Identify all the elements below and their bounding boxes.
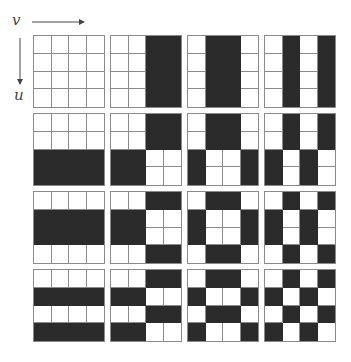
basis-cell xyxy=(111,36,129,54)
basis-cell xyxy=(34,114,52,132)
basis-cell xyxy=(223,270,241,288)
basis-cell xyxy=(146,132,164,150)
basis-cell xyxy=(111,288,129,306)
basis-cell xyxy=(241,89,259,107)
basis-cell xyxy=(223,150,241,168)
basis-cell xyxy=(146,306,164,324)
basis-cell xyxy=(318,306,336,324)
basis-cell xyxy=(300,114,318,132)
basis-cell xyxy=(188,288,206,306)
basis-cell xyxy=(265,54,283,72)
basis-cell xyxy=(206,270,224,288)
basis-cell xyxy=(87,228,105,246)
basis-cell xyxy=(241,323,259,341)
basis-cell xyxy=(34,245,52,263)
basis-cell xyxy=(188,228,206,246)
basis-cell xyxy=(206,89,224,107)
basis-cell xyxy=(164,323,182,341)
basis-cell xyxy=(223,89,241,107)
basis-cell xyxy=(188,132,206,150)
basis-cell xyxy=(206,323,224,341)
basis-cell xyxy=(69,306,87,324)
basis-block-u1-v1 xyxy=(110,113,182,186)
basis-cell xyxy=(265,89,283,107)
basis-cell xyxy=(241,270,259,288)
basis-cell xyxy=(318,245,336,263)
basis-cell xyxy=(129,306,147,324)
basis-cell xyxy=(146,228,164,246)
basis-cell xyxy=(300,245,318,263)
basis-cell xyxy=(206,132,224,150)
basis-cell xyxy=(164,210,182,228)
basis-cell xyxy=(283,192,301,210)
basis-cell xyxy=(241,72,259,90)
basis-cell xyxy=(318,89,336,107)
basis-cell xyxy=(188,54,206,72)
basis-cell xyxy=(87,150,105,168)
basis-cell xyxy=(129,167,147,185)
basis-cell xyxy=(188,89,206,107)
basis-cell xyxy=(164,150,182,168)
basis-cell xyxy=(34,323,52,341)
basis-block-u3-v2 xyxy=(187,269,259,342)
basis-cell xyxy=(188,192,206,210)
basis-cell xyxy=(52,89,70,107)
basis-cell xyxy=(300,210,318,228)
basis-cell xyxy=(87,72,105,90)
basis-cell xyxy=(206,245,224,263)
basis-cell xyxy=(164,89,182,107)
basis-cell xyxy=(265,245,283,263)
basis-cell xyxy=(164,288,182,306)
basis-cell xyxy=(129,54,147,72)
basis-cell xyxy=(241,192,259,210)
basis-cell xyxy=(111,192,129,210)
basis-cell xyxy=(34,288,52,306)
basis-cell xyxy=(206,167,224,185)
basis-cell xyxy=(52,36,70,54)
basis-cell xyxy=(223,132,241,150)
basis-cell xyxy=(111,114,129,132)
basis-cell xyxy=(52,288,70,306)
basis-cell xyxy=(241,36,259,54)
basis-cell xyxy=(318,167,336,185)
basis-cell xyxy=(146,245,164,263)
basis-cell xyxy=(188,306,206,324)
basis-cell xyxy=(223,72,241,90)
basis-cell xyxy=(188,167,206,185)
basis-cell xyxy=(300,270,318,288)
basis-cell xyxy=(69,210,87,228)
basis-block-u2-v3 xyxy=(264,191,336,264)
basis-cell xyxy=(318,192,336,210)
basis-cell xyxy=(34,89,52,107)
basis-cell xyxy=(241,210,259,228)
basis-cell xyxy=(300,288,318,306)
basis-cell xyxy=(34,54,52,72)
basis-cell xyxy=(52,228,70,246)
basis-cell xyxy=(69,323,87,341)
basis-cell xyxy=(69,132,87,150)
basis-cell xyxy=(300,54,318,72)
basis-cell xyxy=(87,89,105,107)
basis-cell xyxy=(111,228,129,246)
basis-cell xyxy=(283,132,301,150)
basis-cell xyxy=(283,228,301,246)
basis-cell xyxy=(318,36,336,54)
basis-cell xyxy=(129,288,147,306)
basis-cell xyxy=(300,89,318,107)
basis-cell xyxy=(69,288,87,306)
basis-cell xyxy=(34,210,52,228)
basis-cell xyxy=(265,167,283,185)
basis-cell xyxy=(223,323,241,341)
basis-cell xyxy=(146,210,164,228)
basis-cell xyxy=(206,150,224,168)
basis-cell xyxy=(111,54,129,72)
basis-cell xyxy=(318,114,336,132)
basis-cell xyxy=(52,114,70,132)
basis-cell xyxy=(164,54,182,72)
basis-cell xyxy=(129,245,147,263)
basis-cell xyxy=(87,167,105,185)
basis-cell xyxy=(111,72,129,90)
basis-cell xyxy=(318,288,336,306)
basis-cell xyxy=(111,323,129,341)
basis-cell xyxy=(300,150,318,168)
